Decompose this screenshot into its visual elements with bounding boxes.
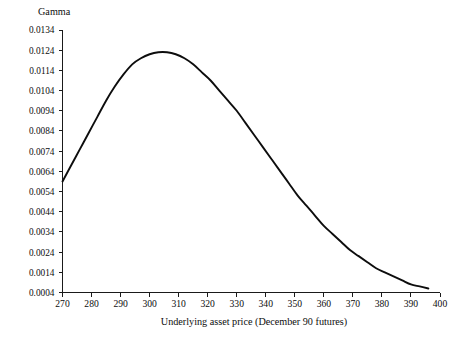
y-tick-label: 0.0074	[29, 147, 55, 157]
x-tick-label: 370	[346, 298, 361, 309]
x-tick-label: 360	[317, 298, 332, 309]
x-tick-label: 390	[404, 298, 419, 309]
y-tick-label: 0.0014	[29, 268, 55, 278]
gamma-curve-line	[63, 52, 429, 288]
y-tick-label: 0.0134	[29, 25, 55, 35]
x-tick-label: 300	[142, 298, 157, 309]
y-tick-label: 0.0094	[29, 106, 55, 116]
y-tick-label: 0.0064	[29, 167, 55, 177]
y-tick-label: 0.0034	[29, 227, 55, 237]
y-axis-tick-labels: 0.00040.00140.00240.00340.00440.00540.00…	[29, 25, 55, 298]
x-tick-label: 380	[375, 298, 390, 309]
y-tick-label: 0.0024	[29, 248, 55, 258]
y-tick-label: 0.0114	[29, 66, 55, 76]
x-tick-label: 290	[113, 298, 128, 309]
y-tick-label: 0.0004	[29, 288, 55, 298]
x-tick-label: 340	[259, 298, 274, 309]
x-tick-label: 270	[55, 298, 70, 309]
x-axis-tick-labels: 2702802903003103203303403503603703803904…	[55, 298, 447, 309]
y-axis-title: Gamma	[38, 6, 71, 17]
x-axis-tick-marks	[63, 293, 441, 297]
y-tick-label: 0.0084	[29, 126, 55, 136]
x-tick-label: 280	[84, 298, 99, 309]
x-axis-title: Underlying asset price (December 90 futu…	[161, 316, 347, 328]
x-tick-label: 400	[433, 298, 448, 309]
y-tick-label: 0.0124	[29, 46, 55, 56]
y-tick-label: 0.0044	[29, 207, 55, 217]
chart-canvas: 0.00040.00140.00240.00340.00440.00540.00…	[0, 0, 458, 339]
x-tick-label: 330	[230, 298, 245, 309]
y-axis-tick-marks	[59, 30, 63, 293]
x-tick-label: 350	[288, 298, 303, 309]
gamma-chart-figure: 0.00040.00140.00240.00340.00440.00540.00…	[0, 0, 458, 339]
y-tick-label: 0.0054	[29, 187, 55, 197]
x-tick-label: 320	[200, 298, 215, 309]
x-tick-label: 310	[171, 298, 186, 309]
y-tick-label: 0.0104	[29, 86, 55, 96]
